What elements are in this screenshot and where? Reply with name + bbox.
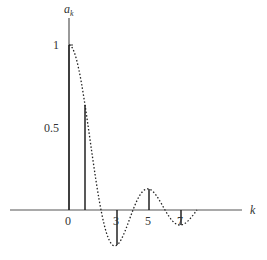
stem-plot: 035710.5 k ak: [0, 0, 267, 260]
x-tick-label: 5: [145, 214, 151, 228]
y-axis-label: ak: [64, 2, 74, 18]
x-tick-label: 7: [177, 214, 183, 228]
x-axis-label: k: [250, 203, 256, 217]
x-tick-label: 3: [113, 214, 119, 228]
stems: [69, 45, 181, 245]
axes: [10, 18, 242, 210]
tick-labels: 035710.5: [44, 38, 183, 228]
x-tick-label: 0: [65, 214, 71, 228]
y-tick-label: 0.5: [44, 121, 59, 135]
y-tick-label: 1: [53, 38, 59, 52]
